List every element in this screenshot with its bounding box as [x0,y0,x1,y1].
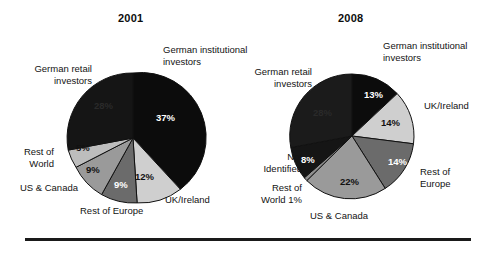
callout-2008-german-retail: German retail investors [228,66,312,89]
value-2008-us-canada: 22% [340,177,359,187]
callout-2008-rest-of-europe: Rest of Europe [420,166,451,189]
callout-2008-german-institutional: German institutional investors [383,40,467,63]
pie-chart-2008 [0,0,495,254]
value-2008-german-retail: 28% [313,108,332,118]
callout-2008-rest-of-world: Rest of World 1% [236,182,302,205]
value-2008-uk-ireland: 14% [381,118,400,128]
bottom-divider-rule [25,238,471,241]
value-2008-not-identified: 8% [301,155,315,165]
value-2008-rest-of-europe: 14% [388,157,407,167]
callout-2008-not-identified: Not Identified [238,151,302,174]
pie-chart-figure: 2001 German institutional investors Germ… [0,0,495,254]
callout-2008-us-canada: US & Canada [310,210,368,222]
callout-2008-uk-ireland: UK/Ireland [424,100,469,112]
value-2008-german-institutional: 13% [364,90,383,100]
